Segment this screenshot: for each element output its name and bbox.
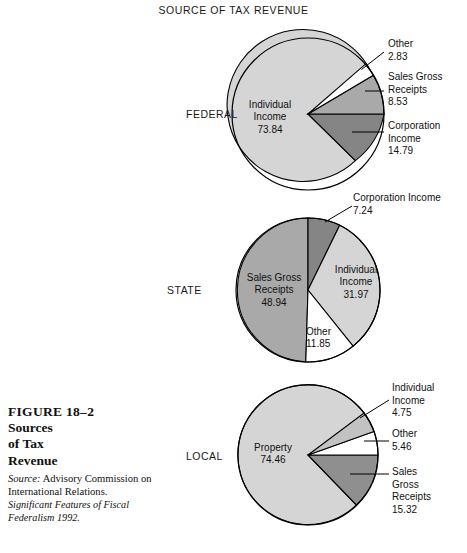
group-label-state: STATE [167, 284, 202, 296]
caption-line-3: Revenue [8, 453, 194, 469]
local-inner-label: Property 74.46 [233, 442, 313, 467]
federal-inner-label: Individual Income 73.84 [227, 99, 313, 136]
caption-source-title: Significant Features of Fiscal Federalis… [8, 498, 194, 524]
caption-source-line-4: Federalism 1992. [8, 511, 194, 524]
caption-source-line-1: Advisory Commission on [41, 473, 152, 484]
caption-line-2: of Tax [8, 436, 194, 452]
local-callout-individual-name-1: Individual [392, 382, 434, 395]
caption-source: Source: Advisory Commission on Internati… [8, 472, 194, 498]
state-inner-label-other: Other 11.85 [306, 326, 354, 351]
caption-figure-number: FIGURE 18–2 [8, 404, 194, 420]
local-callout-other: Other 5.46 [392, 428, 417, 453]
figure-canvas: SOURCE OF TAX REVENUE [0, 0, 467, 553]
federal-callout-sales-value: 8.53 [388, 96, 442, 109]
local-callout-sales-name-2: Gross [392, 479, 431, 492]
local-callout-other-name: Other [392, 428, 417, 441]
state-inner-label-sales: Sales Gross Receipts 48.94 [233, 272, 315, 309]
federal-inner-name-1: Individual [227, 99, 313, 111]
state-inner-sales-name-1: Sales Gross [233, 272, 315, 284]
local-callout-sales-name-3: Receipts [392, 491, 431, 504]
federal-callout-corporation-name-2: Income [388, 133, 440, 146]
state-inner-individual-name-1: Individual [319, 264, 393, 276]
caption-source-first-line: Source: Advisory Commission on [8, 472, 194, 485]
federal-callout-corporation-value: 14.79 [388, 145, 440, 158]
federal-inner-name-2: Income [227, 111, 313, 123]
local-callout-sales-value: 15.32 [392, 504, 431, 517]
local-callout-sales: Sales Gross Receipts 15.32 [392, 466, 431, 516]
federal-callout-other: Other 2.83 [388, 38, 413, 63]
caption-source-label: Source: [8, 473, 41, 484]
local-inner-value: 74.46 [233, 454, 313, 466]
state-callout-corporation: Corporation Income 7.24 [353, 192, 441, 217]
local-callout-sales-name-1: Sales [392, 466, 431, 479]
federal-callout-sales-name-1: Sales Gross [388, 71, 442, 84]
state-inner-other-value: 11.85 [306, 338, 354, 350]
state-inner-other-name: Other [306, 326, 354, 338]
caption-line-1: Sources [8, 420, 194, 436]
federal-callout-sales-name-2: Receipts [388, 84, 442, 97]
state-leader-corporation [325, 206, 352, 222]
local-callout-other-value: 5.46 [392, 441, 417, 454]
state-inner-sales-value: 48.94 [233, 297, 315, 309]
local-callout-individual-value: 4.75 [392, 407, 434, 420]
local-inner-name: Property [233, 442, 313, 454]
state-leader-lines [325, 206, 352, 222]
state-inner-individual-value: 31.97 [319, 289, 393, 301]
federal-callout-corporation-name-1: Corporation [388, 120, 440, 133]
figure-caption: FIGURE 18–2 Sources of Tax Revenue Sourc… [8, 404, 194, 525]
state-callout-corporation-value: 7.24 [353, 205, 441, 218]
local-leader-individual [360, 400, 389, 418]
local-callout-individual: Individual Income 4.75 [392, 382, 434, 420]
state-inner-label-individual: Individual Income 31.97 [319, 264, 393, 301]
federal-callout-other-name: Other [388, 38, 413, 51]
caption-heading: FIGURE 18–2 Sources of Tax Revenue [8, 404, 194, 469]
caption-source-line-2: International Relations. [8, 485, 194, 498]
federal-inner-value: 73.84 [227, 124, 313, 136]
federal-callout-sales: Sales Gross Receipts 8.53 [388, 71, 442, 109]
state-inner-sales-name-2: Receipts [233, 284, 315, 296]
federal-callout-corporation: Corporation Income 14.79 [388, 120, 440, 158]
federal-callout-other-value: 2.83 [388, 51, 413, 64]
caption-source-line-3: Significant Features of Fiscal [8, 498, 194, 511]
state-callout-corporation-name: Corporation Income [353, 192, 441, 205]
state-inner-individual-name-2: Income [319, 276, 393, 288]
local-callout-individual-name-2: Income [392, 395, 434, 408]
